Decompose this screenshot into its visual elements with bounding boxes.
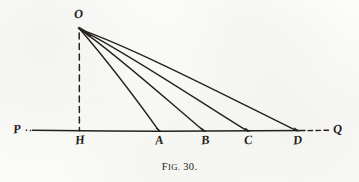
vertex-label-d: D <box>292 134 302 147</box>
ray-ob <box>80 29 204 131</box>
vertex-label-p: P <box>12 123 21 136</box>
vertex-label-q: Q <box>332 123 342 136</box>
vertex-label-c: C <box>243 134 253 147</box>
geometry-diagram <box>0 0 359 182</box>
caption-lead-smallcaps: IG. <box>168 162 180 172</box>
ray-od <box>80 29 297 130</box>
baseline-leader-dot-1 <box>26 129 28 131</box>
vertex-label-b: B <box>200 134 210 147</box>
figure-30-container: O P Q H A B C D FIG.30. <box>0 0 359 182</box>
baseline-segment-pq <box>33 130 306 131</box>
caption-number: 30. <box>183 161 197 172</box>
vertex-label-o: O <box>73 8 83 21</box>
vertex-label-h: H <box>74 134 85 147</box>
vertex-label-a: A <box>154 134 164 147</box>
diagram-strokes <box>26 28 329 131</box>
ray-oc <box>80 29 248 131</box>
baseline-leader-dot-2 <box>30 130 32 132</box>
figure-caption: FIG.30. <box>0 157 359 173</box>
ray-oa <box>79 29 159 131</box>
